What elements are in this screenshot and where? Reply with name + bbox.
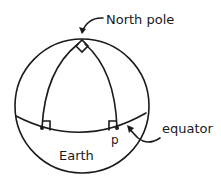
north-pole-label: North pole [106,12,174,27]
earth-label: Earth [59,148,94,163]
meridian-left [42,44,78,128]
earth-diagram: North pole equator Earth p [0,0,221,184]
equator-arc [16,113,146,132]
equator-point-left [40,126,44,130]
equator-label: equator [162,121,214,136]
north-pole-arrowhead [79,27,86,34]
equator-point-p [115,126,119,130]
point-p-label: p [111,133,119,147]
meridian-right [85,44,117,128]
